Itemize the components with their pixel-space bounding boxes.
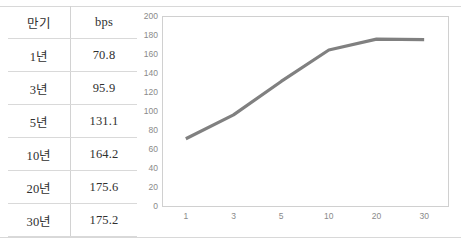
cell-bps: 175.2 [71, 204, 138, 237]
table-row: 3년 95.9 [8, 72, 137, 105]
yield-curve-chart: 020406080100120140160180200 135102030 [136, 8, 454, 236]
table-row: 20년 175.6 [8, 171, 137, 204]
y-axis-tick-label: 140 [144, 68, 158, 78]
y-axis-tick-label: 20 [149, 182, 159, 192]
y-axis-tick-label: 180 [144, 30, 158, 40]
figure-bottom-rule [0, 237, 461, 238]
table-row: 5년 131.1 [8, 105, 137, 138]
y-axis-tick-label: 0 [153, 201, 158, 211]
column-header-bps: bps [71, 6, 138, 39]
plot-area-frame [162, 16, 448, 206]
x-axis-tick-label: 3 [231, 211, 236, 221]
y-axis-tick-label: 40 [149, 163, 159, 173]
cell-bps: 95.9 [71, 72, 138, 105]
cell-bps: 131.1 [71, 105, 138, 138]
cell-maturity: 1년 [8, 39, 71, 72]
x-axis-tick-label: 10 [324, 211, 334, 221]
y-axis-tick-label: 60 [149, 144, 159, 154]
x-axis-tick-label: 5 [279, 211, 284, 221]
cell-maturity: 20년 [8, 171, 71, 204]
x-axis-tick-label: 1 [183, 211, 188, 221]
cell-maturity: 5년 [8, 105, 71, 138]
column-header-maturity: 만기 [8, 6, 71, 39]
y-axis-tick-label: 200 [144, 11, 158, 21]
cell-maturity: 3년 [8, 72, 71, 105]
maturity-bps-table: 만기 bps 1년 70.8 3년 95.9 5년 131.1 10년 164.… [8, 6, 137, 237]
table-row: 30년 175.2 [8, 204, 137, 237]
y-axis-tick-label: 160 [144, 49, 158, 59]
y-axis-tick-label: 80 [149, 125, 159, 135]
cell-bps: 70.8 [71, 39, 138, 72]
table-row: 10년 164.2 [8, 138, 137, 171]
table-row: 1년 70.8 [8, 39, 137, 72]
cell-maturity: 30년 [8, 204, 71, 237]
x-axis-tick-label: 20 [372, 211, 382, 221]
y-axis-tick-label: 120 [144, 87, 158, 97]
y-axis-tick-labels: 020406080100120140160180200 [144, 11, 158, 211]
cell-bps: 175.6 [71, 171, 138, 204]
cell-bps: 164.2 [71, 138, 138, 171]
table-header-row: 만기 bps [8, 6, 137, 39]
figure-container: 만기 bps 1년 70.8 3년 95.9 5년 131.1 10년 164.… [0, 0, 461, 244]
x-axis-tick-labels: 135102030 [183, 211, 429, 221]
chart-svg: 020406080100120140160180200 135102030 [136, 8, 454, 236]
x-axis-tick-label: 30 [419, 211, 429, 221]
y-axis-tick-label: 100 [144, 106, 158, 116]
cell-maturity: 10년 [8, 138, 71, 171]
